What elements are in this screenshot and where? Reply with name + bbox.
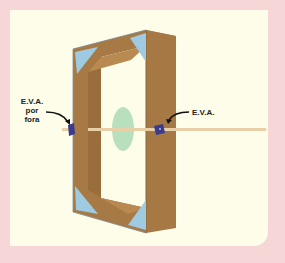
- frame-diagram: [0, 0, 285, 263]
- arrow-left: [46, 112, 68, 122]
- label-eva: E.V.A.: [192, 108, 214, 117]
- frame-inner-left: [88, 57, 101, 198]
- axle-stick: [88, 128, 266, 131]
- label-eva-por-fora: E.V.A. por fora: [18, 97, 46, 124]
- eva-pad-left: [68, 123, 75, 136]
